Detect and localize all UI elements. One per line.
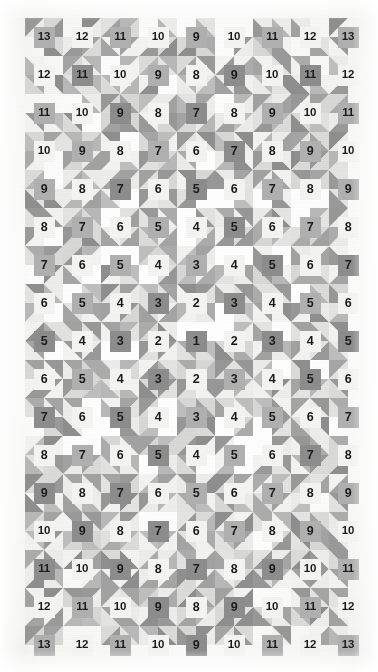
quilt-number-cell: 8 bbox=[72, 483, 93, 504]
quilt-number-cell: 6 bbox=[224, 483, 245, 504]
quilt-number-cell: 9 bbox=[262, 103, 283, 124]
quilt-number-cell: 2 bbox=[148, 331, 169, 352]
quilt-number-cell: 2 bbox=[186, 293, 207, 314]
quilt-number-cell: 8 bbox=[338, 445, 359, 466]
quilt-number-cell: 9 bbox=[34, 483, 55, 504]
quilt-number-cell: 3 bbox=[224, 369, 245, 390]
quilt-number-cell: 11 bbox=[338, 103, 359, 124]
quilt-number-cell: 5 bbox=[34, 331, 55, 352]
quilt-number-cell: 7 bbox=[262, 179, 283, 200]
quilt-number-cell: 4 bbox=[186, 217, 207, 238]
quilt-number-cell: 10 bbox=[34, 521, 55, 542]
quilt-number-cell: 13 bbox=[34, 27, 55, 48]
quilt-number-cell: 6 bbox=[186, 521, 207, 542]
quilt-number-cell: 5 bbox=[72, 293, 93, 314]
quilt-number-cell: 11 bbox=[34, 559, 55, 580]
quilt-number-cell: 6 bbox=[34, 293, 55, 314]
quilt-number-cell: 8 bbox=[300, 179, 321, 200]
quilt-number-cell: 3 bbox=[186, 255, 207, 276]
quilt-number-cell: 10 bbox=[338, 521, 359, 542]
quilt-number-cell: 4 bbox=[224, 255, 245, 276]
quilt-number-cell: 4 bbox=[72, 331, 93, 352]
quilt-number-cell: 4 bbox=[224, 407, 245, 428]
quilt-number-cell: 13 bbox=[34, 635, 55, 656]
quilt-number-cell: 9 bbox=[72, 141, 93, 162]
quilt-number-cell: 5 bbox=[262, 407, 283, 428]
quilt-number-cell: 12 bbox=[300, 635, 321, 656]
quilt-number-cell: 5 bbox=[224, 217, 245, 238]
quilt-number-cell: 6 bbox=[300, 255, 321, 276]
quilt-number-cell: 7 bbox=[148, 521, 169, 542]
quilt-number-cell: 10 bbox=[224, 635, 245, 656]
quilt-number-cell: 11 bbox=[300, 65, 321, 86]
quilt-number-cell: 7 bbox=[34, 407, 55, 428]
quilt-number-cell: 11 bbox=[300, 597, 321, 618]
quilt-number-cell: 8 bbox=[34, 445, 55, 466]
quilt-number-cell: 11 bbox=[110, 635, 131, 656]
quilt-number-cell: 7 bbox=[34, 255, 55, 276]
quilt-number-cell: 8 bbox=[262, 521, 283, 542]
quilt-number-cell: 7 bbox=[338, 255, 359, 276]
quilt-number-cell: 10 bbox=[300, 559, 321, 580]
quilt-number-cell: 9 bbox=[110, 559, 131, 580]
quilt-number-cell: 9 bbox=[72, 521, 93, 542]
quilt-number-cell: 8 bbox=[262, 141, 283, 162]
quilt-grid: 1312111091011121312111098910111211109878… bbox=[25, 18, 355, 650]
quilt-number-cell: 8 bbox=[224, 103, 245, 124]
quilt-number-cell: 12 bbox=[72, 27, 93, 48]
quilt-number-cell: 13 bbox=[338, 27, 359, 48]
quilt-number-cell: 5 bbox=[262, 255, 283, 276]
quilt-number-cell: 3 bbox=[224, 293, 245, 314]
quilt-number-cell: 5 bbox=[300, 369, 321, 390]
quilt-number-cell: 6 bbox=[72, 255, 93, 276]
quilt-number-cell: 10 bbox=[148, 27, 169, 48]
quilt-number-cell: 9 bbox=[110, 103, 131, 124]
quilt-number-cell: 12 bbox=[72, 635, 93, 656]
quilt-photograph: 1312111091011121312111098910111211109878… bbox=[0, 0, 378, 672]
quilt-number-cell: 10 bbox=[34, 141, 55, 162]
quilt-number-cell: 11 bbox=[262, 635, 283, 656]
quilt-number-cell: 4 bbox=[110, 293, 131, 314]
quilt-number-cell: 6 bbox=[148, 179, 169, 200]
quilt-number-cell: 10 bbox=[262, 65, 283, 86]
quilt-number-cell: 10 bbox=[262, 597, 283, 618]
quilt-number-cell: 10 bbox=[72, 559, 93, 580]
quilt-number-cell: 7 bbox=[110, 483, 131, 504]
quilt-number-cell: 2 bbox=[186, 369, 207, 390]
quilt-number-cell: 7 bbox=[186, 103, 207, 124]
quilt-number-cell: 8 bbox=[300, 483, 321, 504]
quilt-number-cell: 4 bbox=[186, 445, 207, 466]
quilt-number-cell: 6 bbox=[262, 217, 283, 238]
quilt-number-cell: 11 bbox=[110, 27, 131, 48]
quilt-number-cell: 11 bbox=[72, 65, 93, 86]
quilt-number-cell: 3 bbox=[148, 293, 169, 314]
quilt-number-cell: 10 bbox=[148, 635, 169, 656]
quilt-number-cell: 8 bbox=[338, 217, 359, 238]
quilt-number-cell: 6 bbox=[72, 407, 93, 428]
quilt-number-cell: 9 bbox=[262, 559, 283, 580]
quilt-number-cell: 3 bbox=[262, 331, 283, 352]
quilt-number-cell: 2 bbox=[224, 331, 245, 352]
quilt-number-cell: 8 bbox=[72, 179, 93, 200]
quilt-number-cell: 9 bbox=[300, 141, 321, 162]
quilt-number-cell: 5 bbox=[110, 255, 131, 276]
quilt-number-cell: 5 bbox=[72, 369, 93, 390]
quilt-number-cell: 6 bbox=[110, 217, 131, 238]
quilt-number-cell: 5 bbox=[300, 293, 321, 314]
quilt-number-cell: 4 bbox=[110, 369, 131, 390]
quilt-number-cell: 8 bbox=[186, 597, 207, 618]
quilt-number-cell: 6 bbox=[110, 445, 131, 466]
quilt-number-cell: 6 bbox=[300, 407, 321, 428]
quilt-number-cell: 4 bbox=[148, 255, 169, 276]
quilt-number-cell: 10 bbox=[224, 27, 245, 48]
quilt-number-cell: 10 bbox=[338, 141, 359, 162]
quilt-number-cell: 7 bbox=[262, 483, 283, 504]
quilt-number-cell: 8 bbox=[224, 559, 245, 580]
quilt-number-cell: 9 bbox=[186, 635, 207, 656]
quilt-number-cell: 9 bbox=[300, 521, 321, 542]
quilt-number-cell: 6 bbox=[186, 141, 207, 162]
quilt-number-cell: 5 bbox=[110, 407, 131, 428]
quilt-number-cell: 7 bbox=[338, 407, 359, 428]
quilt-number-cell: 3 bbox=[186, 407, 207, 428]
quilt-number-cell: 6 bbox=[338, 293, 359, 314]
